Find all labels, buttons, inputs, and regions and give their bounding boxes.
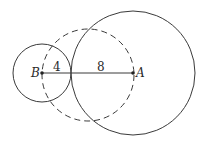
- label-a: A: [135, 66, 145, 80]
- geometry-diagram: B A 4 8: [0, 0, 204, 145]
- point-b: [40, 71, 44, 75]
- label-length-4: 4: [53, 60, 61, 74]
- point-a: [131, 71, 135, 75]
- circle-dashed: [42, 29, 134, 121]
- label-b: B: [30, 66, 40, 80]
- label-length-8: 8: [97, 60, 105, 74]
